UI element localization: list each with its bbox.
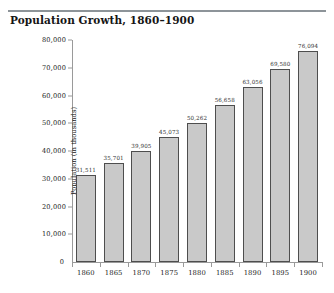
- bar-slot: 50,262: [183, 40, 211, 262]
- x-tick-label: 1880: [188, 269, 206, 277]
- bar-value-label: 50,262: [187, 115, 207, 121]
- bar-value-label: 35,701: [104, 155, 124, 161]
- bar-slot: 31,511: [72, 40, 100, 262]
- bar-slot: 76,094: [294, 40, 322, 262]
- y-tick-label: 60,000: [42, 92, 72, 100]
- bar[interactable]: [270, 69, 290, 262]
- x-tick-label: 1890: [244, 269, 262, 277]
- chart-figure: Population Growth, 1860–1900 Population …: [0, 0, 334, 293]
- y-tick-label: 70,000: [42, 64, 72, 72]
- x-tick-label: 1875: [160, 269, 178, 277]
- x-tick-mark: [72, 263, 73, 267]
- y-tick-label: 40,000: [42, 147, 72, 155]
- bar-slot: 56,658: [211, 40, 239, 262]
- bar[interactable]: [104, 163, 124, 262]
- x-tick-mark: [239, 263, 240, 267]
- bar-slot: 35,701: [100, 40, 128, 262]
- x-tick-mark: [183, 263, 184, 267]
- bar[interactable]: [159, 137, 179, 262]
- x-axis-ticks: 186018651870187518801885189018951900: [72, 263, 323, 285]
- bar-slot: 69,580: [266, 40, 294, 262]
- bar[interactable]: [187, 123, 207, 262]
- x-tick-label: 1865: [105, 269, 123, 277]
- bar-value-label: 31,511: [76, 167, 96, 173]
- x-tick-mark: [322, 263, 323, 267]
- bar-value-label: 45,073: [159, 129, 179, 135]
- bar-value-label: 39,905: [131, 143, 151, 149]
- x-tick-label: 1860: [77, 269, 95, 277]
- x-tick-mark: [294, 263, 295, 267]
- y-tick-label: 80,000: [42, 36, 72, 44]
- bar[interactable]: [298, 51, 318, 262]
- x-tick-label: 1900: [299, 269, 317, 277]
- bar-series: 31,51135,70139,90545,07350,26256,65863,0…: [72, 40, 322, 262]
- bar[interactable]: [243, 87, 263, 262]
- bar[interactable]: [131, 151, 151, 262]
- bar-value-label: 69,580: [270, 61, 290, 67]
- x-tick-label: 1895: [271, 269, 289, 277]
- bar-slot: 63,056: [239, 40, 267, 262]
- bar-slot: 45,073: [155, 40, 183, 262]
- x-tick-mark: [211, 263, 212, 267]
- y-tick-label-zero: 0: [60, 258, 64, 266]
- bar-slot: 39,905: [128, 40, 156, 262]
- x-tick-label: 1885: [216, 269, 234, 277]
- bar[interactable]: [76, 175, 96, 262]
- y-tick-label: 10,000: [42, 230, 72, 238]
- x-tick-mark: [100, 263, 101, 267]
- chart-title: Population Growth, 1860–1900: [10, 14, 194, 26]
- bar-value-label: 63,056: [242, 79, 262, 85]
- x-tick-label: 1870: [133, 269, 151, 277]
- bar-value-label: 56,658: [215, 97, 235, 103]
- x-tick-mark: [128, 263, 129, 267]
- y-tick-label: 20,000: [42, 203, 72, 211]
- x-tick-mark: [155, 263, 156, 267]
- bar[interactable]: [215, 105, 235, 262]
- plot-area: Population (in thousands) 10,00020,00030…: [72, 40, 322, 262]
- y-tick-label: 30,000: [42, 175, 72, 183]
- y-tick-label: 50,000: [42, 119, 72, 127]
- header-rule: [8, 10, 326, 12]
- x-tick-mark: [266, 263, 267, 267]
- bar-value-label: 76,094: [298, 43, 318, 49]
